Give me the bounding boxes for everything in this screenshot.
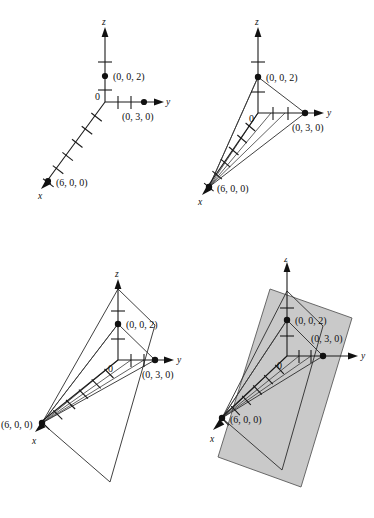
point-z-intercept-label: (0, 0, 2): [126, 319, 158, 331]
point-y-intercept-label: (0, 3, 0): [122, 111, 154, 123]
x-axis-label: x: [197, 197, 203, 207]
z-axis-label: z: [254, 17, 259, 27]
origin-label: 0: [249, 113, 254, 124]
point-y-intercept-label: (0, 3, 0): [142, 369, 174, 381]
figure-root: z y x 0 (0, 0, 2): [0, 0, 374, 518]
y-axis: y: [118, 354, 182, 367]
panel-b-top-right: z y x 0 (0, 0, 2): [187, 0, 374, 240]
trace-triangle: [209, 77, 305, 187]
origin-label: 0: [95, 91, 100, 102]
y-axis-label: y: [360, 351, 366, 361]
y-axis-label: y: [176, 355, 182, 365]
z-axis: z: [111, 269, 125, 360]
point-z-intercept-label: (0, 0, 2): [266, 72, 298, 84]
point-x-intercept-label: (6, 0, 0): [1, 419, 33, 431]
y-axis: y: [105, 96, 171, 109]
z-axis-label: z: [114, 269, 119, 279]
point-x-intercept-label: (6, 0, 0): [56, 177, 88, 189]
y-axis-label: y: [326, 108, 332, 118]
x-axis-label: x: [209, 434, 215, 444]
point-z-intercept-label: (0, 0, 2): [113, 71, 145, 83]
ruling-lines-fan: [42, 324, 144, 423]
z-axis-label: z: [283, 258, 288, 264]
origin-label: 0: [277, 360, 282, 371]
panel-c-bottom-left: z y x 0 (0, 0, 2): [0, 258, 187, 518]
panel-d-bottom-right: z y x 0 (0, 0, 2): [187, 258, 374, 518]
point-y-intercept-label: (0, 3, 0): [292, 122, 324, 134]
z-axis-label: z: [101, 17, 106, 27]
x-axis-label: x: [31, 436, 37, 446]
y-axis-label: y: [165, 97, 171, 107]
panel-a-top-left: z y x 0 (0, 0, 2): [0, 0, 187, 240]
x-axis-label: x: [37, 191, 43, 201]
point-x-intercept-label: (6, 0, 0): [230, 414, 262, 426]
origin-label: 0: [108, 363, 113, 374]
point-z-intercept: (0, 0, 2): [115, 319, 158, 331]
z-axis: z: [98, 17, 112, 102]
point-x-intercept-label: (6, 0, 0): [217, 183, 249, 195]
ruling-lines-fan: [209, 77, 285, 187]
point-z-intercept: (0, 0, 2): [255, 72, 298, 84]
point-z-intercept-label: (0, 0, 2): [295, 315, 327, 327]
point-z-intercept: (0, 0, 2): [102, 71, 145, 83]
y-axis: y: [258, 107, 332, 120]
z-axis: z: [251, 17, 265, 113]
point-x-intercept: (6, 0, 0): [45, 177, 88, 189]
point-y-intercept-label: (0, 3, 0): [311, 333, 343, 345]
